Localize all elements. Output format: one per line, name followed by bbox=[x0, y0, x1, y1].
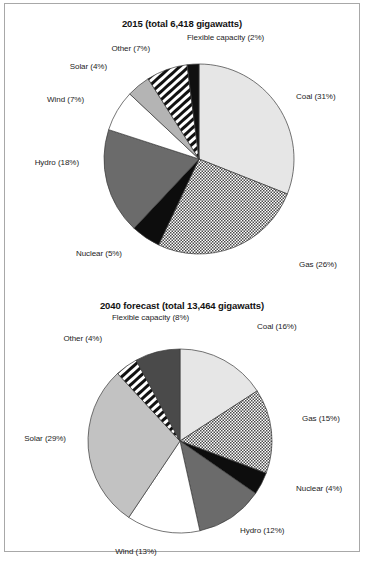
pie-label-wind: Wind (13%) bbox=[115, 547, 156, 556]
pie-label-coal: Coal (31%) bbox=[296, 92, 336, 101]
pie-chart-2015-svg bbox=[5, 4, 361, 294]
pie-chart-2040-svg bbox=[5, 286, 361, 567]
pie-label-gas: Gas (26%) bbox=[299, 260, 337, 269]
pie-label-solar: Solar (29%) bbox=[24, 434, 66, 443]
pie-label-other: Other (4%) bbox=[63, 334, 102, 343]
pie-label-coal: Coal (16%) bbox=[257, 322, 297, 331]
pie-label-hydro: Hydro (18%) bbox=[35, 158, 79, 167]
pie-label-nuclear: Nuclear (5%) bbox=[76, 249, 122, 258]
pie-label-solar: Solar (4%) bbox=[70, 62, 107, 71]
pie-label-hydro: Hydro (12%) bbox=[240, 526, 284, 535]
pie-label-nuclear: Nuclear (4%) bbox=[296, 484, 342, 493]
figure-frame: 2015 (total 6,418 gigawatts) Coal (31%)G… bbox=[4, 3, 360, 552]
pie-label-other: Other (7%) bbox=[111, 44, 150, 53]
pie-label-flexible-capacity: Flexible capacity (8%) bbox=[112, 313, 189, 322]
pie-label-flexible-capacity: Flexible capacity (2%) bbox=[187, 33, 264, 42]
pie-label-wind: Wind (7%) bbox=[47, 95, 84, 104]
pie-label-gas: Gas (15%) bbox=[302, 414, 340, 423]
